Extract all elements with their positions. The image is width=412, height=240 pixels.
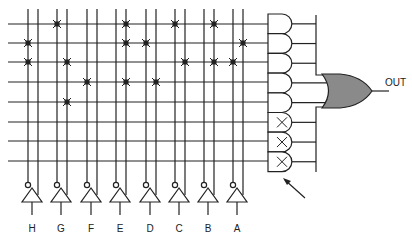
output-label: OUT	[385, 77, 406, 88]
inverter-bubble-icon	[54, 182, 59, 187]
and-gate-array	[268, 14, 330, 172]
input-label: F	[88, 223, 94, 234]
buffer-icon	[198, 188, 218, 202]
buffer-icon	[227, 188, 247, 202]
input-label: C	[175, 223, 182, 234]
or-gate	[316, 15, 389, 172]
and-gate-icon	[268, 132, 292, 152]
input-label: G	[57, 223, 65, 234]
input-label: B	[205, 223, 212, 234]
or-input-bus-top	[316, 15, 326, 75]
crosspoint-grid	[8, 9, 268, 195]
inverter-bubble-icon	[25, 182, 30, 187]
inverter-bubble-icon	[113, 182, 118, 187]
annotation-arrow	[283, 178, 305, 198]
input-labels: HGFEDCBA	[28, 223, 240, 234]
input-buffers	[22, 182, 247, 215]
and-gate-icon	[268, 93, 292, 113]
buffer-icon	[81, 188, 101, 202]
inverter-bubble-icon	[230, 182, 235, 187]
input-label: H	[28, 223, 35, 234]
or-input-bus-bottom	[316, 107, 326, 172]
inverter-bubble-icon	[84, 182, 89, 187]
inverter-bubble-icon	[201, 182, 206, 187]
buffer-icon	[110, 188, 130, 202]
pla-diagram: HGFEDCBA OUT	[0, 0, 412, 240]
input-label: E	[117, 223, 124, 234]
input-label: A	[234, 223, 241, 234]
and-gate-icon	[268, 152, 292, 172]
and-gate-icon	[268, 53, 292, 73]
and-gate-icon	[268, 113, 292, 133]
inverter-bubble-icon	[143, 182, 148, 187]
or-gate-icon	[322, 74, 372, 108]
and-gate-icon	[268, 73, 292, 93]
buffer-icon	[51, 188, 71, 202]
and-gate-icon	[268, 34, 292, 54]
and-gate-icon	[268, 14, 292, 34]
inverter-bubble-icon	[172, 182, 177, 187]
buffer-icon	[22, 188, 42, 202]
input-label: D	[146, 223, 153, 234]
buffer-icon	[140, 188, 160, 202]
buffer-icon	[169, 188, 189, 202]
